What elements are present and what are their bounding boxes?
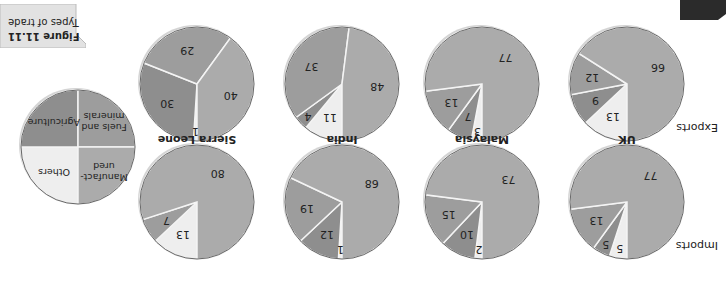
slice-value-label: 12 <box>585 71 599 84</box>
slice-value-label: 11 <box>323 111 337 124</box>
figure-title-box: Figure 11.11 Types of trade <box>0 4 86 48</box>
country-label-uk: UK <box>618 133 635 146</box>
slice-value-label: 3 <box>474 124 481 137</box>
slice-value-label: 40 <box>224 88 238 101</box>
slice-value-label: 1 <box>192 124 199 137</box>
slice-value-label: 13 <box>590 214 604 227</box>
slice-value-label: 73 <box>502 172 516 185</box>
slice-value-label: 12 <box>320 227 334 240</box>
figure-label: Figure 11.11 <box>8 31 79 42</box>
legend-pie <box>19 88 135 204</box>
slice-value-label: 7 <box>464 110 471 123</box>
slice-value-label: 10 <box>460 227 474 240</box>
slice-value-label: 77 <box>498 51 512 64</box>
corner-tab-marker <box>680 0 726 20</box>
slice-value-label: 37 <box>305 60 319 73</box>
country-label-malaysia: Malaysia <box>455 133 509 146</box>
slice-value-label: 13 <box>445 96 459 109</box>
slice-value-label: 13 <box>176 228 190 241</box>
legend-label-others: Others <box>38 167 70 178</box>
slice-value-label: 15 <box>442 207 456 220</box>
country-label-india: India <box>327 133 358 146</box>
slice-value-label: 48 <box>370 80 384 93</box>
slice-value-label: 77 <box>643 169 657 182</box>
pie-charts <box>0 0 726 282</box>
pie-imports-sierra-leone <box>138 143 254 259</box>
pie-imports-uk <box>568 143 684 259</box>
slice-value-label: 30 <box>160 96 174 109</box>
slice-value-label: 68 <box>365 177 379 190</box>
slice-value-label: 9 <box>592 94 599 107</box>
legend-label-manufactured: Manufact-ured <box>80 161 128 183</box>
row-label-imports: Imports <box>676 239 718 252</box>
slice-value-label: 7 <box>163 214 170 227</box>
figure: Imports Exports UK Malaysia India Sierra… <box>0 0 726 282</box>
legend-label-fuels: Fuels and minerals <box>78 111 130 133</box>
figure-caption: Types of trade <box>8 17 79 28</box>
slice-value-label: 4 <box>304 110 311 123</box>
legend-label-agriculture: Agriculture <box>28 117 80 128</box>
slice-value-label: 2 <box>476 242 483 255</box>
slice-value-label: 5 <box>616 242 623 255</box>
slice-value-label: 80 <box>211 167 225 180</box>
slice-value-label: 1 <box>337 242 344 255</box>
slice-value-label: 66 <box>651 60 665 73</box>
slice-value-label: 19 <box>300 201 314 214</box>
slice-value-label: 29 <box>180 44 194 57</box>
row-label-exports: Exports <box>676 121 718 134</box>
slice-value-label: 13 <box>606 110 620 123</box>
slice-value-label: 5 <box>602 237 609 250</box>
